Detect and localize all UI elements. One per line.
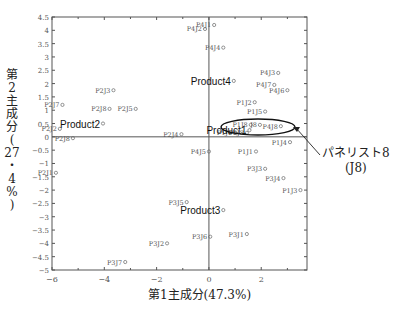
x-axis-title: 第1主成分(47.3%) xyxy=(0,285,399,302)
y-tick-label: −2.5 xyxy=(32,200,49,208)
panelist-point xyxy=(279,125,282,128)
panelist-point xyxy=(299,189,302,192)
panelist-label: P3J6 xyxy=(192,233,207,241)
y-tick-label: −3.5 xyxy=(32,227,49,235)
x-tick-label: −2 xyxy=(151,275,163,284)
product-label: Product4 xyxy=(191,76,231,87)
panelist-label: P1J4 xyxy=(272,139,287,147)
panelist-label: P3J7 xyxy=(107,259,122,267)
y-tick-label: 4.5 xyxy=(38,14,49,22)
x-tick-label: 0 xyxy=(206,275,211,284)
panelist-label: P1J2 xyxy=(236,99,251,107)
panelist-label: P2J7 xyxy=(44,101,59,109)
panelist-point xyxy=(264,167,267,170)
panelist-label: P2J3 xyxy=(95,87,110,95)
panelist-label: P1J3 xyxy=(282,187,297,195)
panelist-label: P1J1 xyxy=(238,148,253,156)
y-tick-label: −1 xyxy=(39,160,49,168)
panelist-label: P4J6 xyxy=(269,87,284,95)
panelist-label: P3J4 xyxy=(265,175,280,183)
panelist-point xyxy=(108,107,111,110)
panelist-point xyxy=(124,260,127,263)
y-tick-label: −5 xyxy=(39,267,49,275)
panelist-label: P2J2 xyxy=(42,125,57,133)
panelist-point xyxy=(222,46,225,49)
panelist-point xyxy=(258,123,261,126)
y-tick-label: −2 xyxy=(39,187,49,195)
panelist-point xyxy=(165,242,168,245)
y-tick-label: −4 xyxy=(39,240,50,248)
product-point xyxy=(101,122,104,125)
product-label: Product3 xyxy=(180,205,220,216)
y-tick-label: 3 xyxy=(45,54,49,62)
panelist-label: P3J1 xyxy=(229,231,244,239)
plot-frame xyxy=(52,17,307,270)
y-axis-title: 第2主成分(27・4%) xyxy=(4,69,20,212)
panelist-point xyxy=(264,110,267,113)
x-tick-label: −6 xyxy=(46,275,58,284)
y-tick-label: 2.5 xyxy=(38,67,49,75)
panelist-label: P4J4 xyxy=(205,44,220,52)
y-tick-label: −4.5 xyxy=(32,254,49,262)
panelist-point xyxy=(134,107,137,110)
y-tick-label: 4 xyxy=(45,27,50,35)
panelist-point xyxy=(282,177,285,180)
product-label: Product2 xyxy=(60,119,100,130)
panelist-label: P2J1 xyxy=(38,169,53,177)
panelist-label: P4J5 xyxy=(191,148,206,156)
panelist-label: P2J8 xyxy=(91,105,106,113)
product-point xyxy=(232,79,235,82)
panelist-label: P4J2 xyxy=(187,25,202,33)
panelist-label: P3J3 xyxy=(247,165,262,173)
panelist-label: P2J8 xyxy=(55,135,70,143)
panelist-label: P3J2 xyxy=(149,240,164,248)
panelist-label: P2J4 xyxy=(163,131,178,139)
panelist-point xyxy=(180,133,183,136)
panelist-point xyxy=(54,171,57,174)
panelist-point xyxy=(253,101,256,104)
panelist-point xyxy=(277,71,280,74)
x-tick-label: 2 xyxy=(259,275,264,284)
panelist-label: J8 xyxy=(249,121,257,129)
callout-line-1: パネリスト8 xyxy=(322,146,390,161)
panelist-label: P2J5 xyxy=(117,105,132,113)
callout-arrow xyxy=(296,128,320,155)
panelist-point xyxy=(254,150,257,153)
y-tick-label: 2 xyxy=(45,81,49,89)
panelist-point xyxy=(185,200,188,203)
y-tick-label: −3 xyxy=(39,214,49,222)
y-tick-label: 3.5 xyxy=(38,41,49,49)
panelist-point xyxy=(112,89,115,92)
y-tick-label: −0.5 xyxy=(32,147,49,155)
panelist-label: P4J8 xyxy=(263,123,278,131)
panelist-8-callout: パネリスト8 (J8) xyxy=(322,146,390,176)
panelist-label: P1J5 xyxy=(247,108,262,116)
panelist-point xyxy=(213,23,216,26)
y-tick-label: 0 xyxy=(45,134,49,142)
panelist-label: P4J3 xyxy=(260,69,275,77)
panelist-point xyxy=(288,141,291,144)
panelist-point xyxy=(286,89,289,92)
x-tick-label: −4 xyxy=(98,275,110,284)
panelist-point xyxy=(245,232,248,235)
product-point xyxy=(222,208,225,211)
callout-line-2: (J8) xyxy=(322,161,390,176)
panelist-point xyxy=(61,103,64,106)
